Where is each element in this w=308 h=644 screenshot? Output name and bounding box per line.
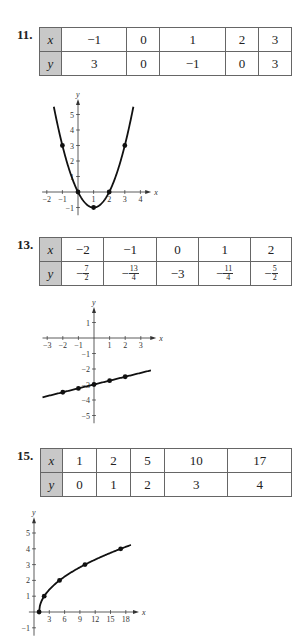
svg-text:4: 4: [26, 545, 30, 554]
data-point: [83, 562, 88, 567]
svg-text:y: y: [31, 508, 36, 517]
svg-text:9: 9: [78, 615, 82, 624]
data-point: [42, 594, 47, 599]
svg-text:2: 2: [26, 576, 30, 585]
svg-text:18: 18: [122, 615, 130, 624]
data-point: [57, 578, 62, 583]
svg-text:−1: −1: [21, 624, 30, 633]
svg-text:5: 5: [26, 529, 30, 538]
svg-text:6: 6: [63, 615, 67, 624]
svg-text:1: 1: [26, 592, 30, 601]
svg-text:15: 15: [107, 615, 115, 624]
svg-text:12: 12: [91, 615, 99, 624]
function-curve: [39, 545, 131, 612]
svg-text:3: 3: [47, 615, 51, 624]
graph-15: xy369121518−112345: [0, 0, 308, 644]
data-point: [118, 546, 123, 551]
svg-text:3: 3: [26, 561, 30, 570]
data-point: [37, 610, 42, 615]
svg-text:x: x: [141, 608, 146, 617]
